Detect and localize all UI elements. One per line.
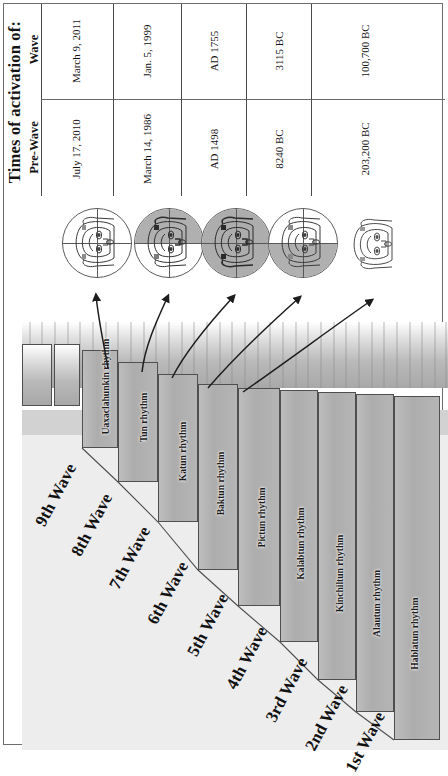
- wave-step-1[interactable]: [394, 396, 440, 740]
- table-cell-pre-wave-1: July 17, 2010: [70, 104, 82, 194]
- table-cell-wave-1: March 9, 2011: [70, 6, 82, 96]
- table-title: Times of activation of:: [5, 7, 25, 197]
- table-column-divider-2: [181, 4, 182, 196]
- table-cell-wave-5: 100,700 BC: [359, 6, 371, 96]
- wave-label-7: 7th Wave: [105, 523, 155, 593]
- table-cell-wave-2: Jan. 5, 1999: [141, 6, 153, 96]
- table-cell-pre-wave-4: 8240 BC: [273, 104, 285, 194]
- face-icon-1: [62, 208, 130, 276]
- head-diagram-5: [340, 210, 408, 278]
- face-icon-4: [268, 208, 336, 276]
- rhythm-label-3: Kinchiltun rhythm: [334, 514, 345, 634]
- wave-label-5: 5th Wave: [183, 590, 233, 660]
- consciousness-head-diagrams: [0, 198, 448, 306]
- head-diagram-1: [62, 208, 130, 276]
- table-cell-pre-wave-3: AD 1498: [208, 104, 220, 194]
- rhythm-label-6: Baktun rhythm: [215, 432, 226, 536]
- face-icon-5: [340, 210, 408, 278]
- wave-label-3: 3rd Wave: [262, 654, 313, 725]
- nine-waves-staircase: Uaxaclahunkin rhythm Tun rhythm Katun rh…: [0, 300, 448, 750]
- wave-label-8: 8th Wave: [67, 490, 117, 560]
- rhythm-label-1: Hablatun rhythm: [409, 580, 420, 688]
- table-column-divider-1: [113, 4, 114, 196]
- pedestal-block-2: [54, 344, 80, 406]
- rhythm-label-9: Uaxaclahunkin rhythm: [100, 341, 111, 435]
- table-column-divider-3: [246, 4, 247, 196]
- face-icon-2: [134, 208, 202, 276]
- pedestal-block-1: [22, 344, 52, 406]
- table-cell-pre-wave-5: 203,200 BC: [359, 104, 371, 194]
- table-row-header-wave: Wave: [27, 10, 42, 90]
- table-column-divider-4: [311, 4, 312, 196]
- rhythm-label-4: Kalabtun rhythm: [295, 488, 306, 600]
- face-icon-3: [201, 208, 269, 276]
- table-cell-pre-wave-2: March 14, 1986: [141, 104, 153, 194]
- head-diagram-3: [201, 208, 269, 276]
- activation-times-table: Times of activation of: Wave Pre-Wave Ma…: [0, 0, 448, 199]
- table-row-divider: [41, 99, 445, 100]
- rhythm-label-2: Alautun rhythm: [371, 550, 382, 658]
- table-cell-wave-4: 3115 BC: [273, 6, 285, 96]
- rhythm-label-8: Tun rhythm: [138, 371, 149, 465]
- wave-label-6: 6th Wave: [143, 558, 193, 628]
- head-diagram-2: [134, 208, 202, 276]
- wave-label-4: 4th Wave: [222, 623, 272, 693]
- table-cell-wave-3: AD 1755: [208, 6, 220, 96]
- wave-label-9: 9th Wave: [31, 460, 81, 530]
- head-diagram-4: [268, 208, 336, 276]
- wave-label-2: 2nd Wave: [301, 682, 352, 755]
- rhythm-label-7: Katun rhythm: [177, 402, 188, 502]
- wave-label-1: 1st Wave: [341, 708, 389, 775]
- table-row-header-pre-wave: Pre-Wave: [27, 104, 42, 192]
- rhythm-label-5: Pictun rhythm: [256, 466, 267, 570]
